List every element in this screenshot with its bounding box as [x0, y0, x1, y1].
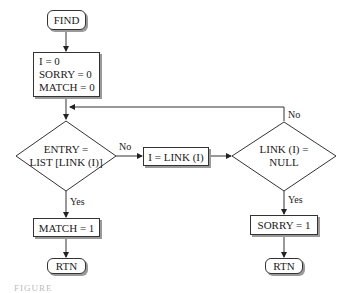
- match-label: MATCH = 1: [39, 222, 95, 234]
- match-process-box: MATCH = 1: [33, 218, 100, 237]
- init-line-1: I = 0: [39, 55, 60, 68]
- null-no-label: No: [288, 109, 300, 120]
- sorry-process-box: SORRY = 1: [250, 215, 318, 235]
- null-decision-line-1: LINK (I) =: [234, 143, 334, 156]
- start-terminal: FIND: [47, 10, 86, 30]
- sorry-label: SORRY = 1: [258, 219, 311, 231]
- return-left-label: RTN: [56, 260, 77, 272]
- figure-caption: FIGURE: [14, 283, 53, 293]
- entry-decision-text: ENTRY = LIST [LINK (I)]: [16, 143, 116, 169]
- init-line-2: SORRY = 0: [39, 68, 92, 81]
- null-yes-label: Yes: [288, 194, 303, 205]
- entry-yes-label: Yes: [70, 196, 85, 207]
- advance-process-box: I = LINK (I): [143, 147, 209, 166]
- null-decision-line-2: NULL: [234, 156, 334, 169]
- return-right-label: RTN: [273, 260, 294, 272]
- null-decision-text: LINK (I) = NULL: [234, 143, 334, 169]
- init-line-3: MATCH = 0: [39, 81, 95, 94]
- return-terminal-right: RTN: [265, 258, 303, 274]
- entry-decision-line-2: LIST [LINK (I)]: [16, 156, 116, 169]
- return-terminal-left: RTN: [47, 258, 86, 274]
- start-label: FIND: [54, 14, 80, 26]
- advance-label: I = LINK (I): [148, 151, 203, 163]
- init-process-box: I = 0 SORRY = 0 MATCH = 0: [33, 52, 100, 97]
- entry-decision-line-1: ENTRY =: [16, 143, 116, 156]
- entry-no-label: No: [119, 141, 131, 152]
